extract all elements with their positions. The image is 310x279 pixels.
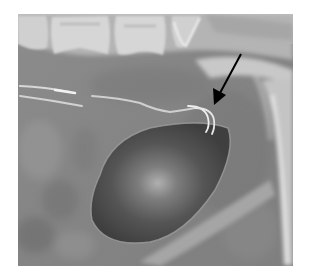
figure-description: Grayscale X-ray showing a dark oval ball… [0,0,1,1]
figure: Grayscale X-ray showing a dark oval ball… [0,0,310,279]
radiograph-image [18,14,293,266]
